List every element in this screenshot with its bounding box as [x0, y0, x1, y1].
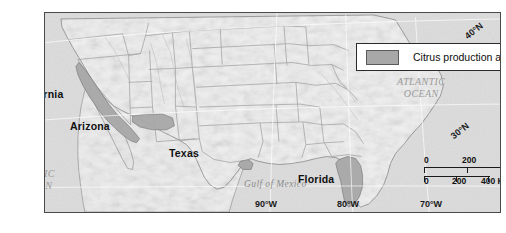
- map-frame: Citrus production areas 0 200 400 Miles …: [44, 12, 501, 213]
- pacific-line-1: PACIFIC: [44, 168, 55, 180]
- miles-tick-0: 0: [424, 155, 429, 165]
- map-legend: Citrus production areas: [356, 43, 501, 71]
- label-gulf-of-mexico: Gulf of Mexico: [244, 179, 307, 190]
- label-texas: Texas: [169, 147, 199, 159]
- pacific-line-2: OCEAN: [44, 180, 55, 192]
- km-rule-tick-2: [488, 177, 489, 182]
- label-california: California: [44, 88, 63, 100]
- miles-rule-tick-1: [467, 168, 468, 173]
- atlantic-line-1: ATLANTIC: [397, 76, 445, 88]
- label-arizona: Arizona: [70, 120, 110, 132]
- atlantic-line-2: OCEAN: [397, 88, 445, 100]
- citrus-production-map-figure: Citrus production areas 0 200 400 Miles …: [0, 0, 506, 233]
- legend-label: Citrus production areas: [413, 51, 501, 63]
- citrus-swatch-icon: [366, 50, 399, 65]
- label-lon-90w: 90°W: [255, 199, 277, 209]
- miles-rule-tick-0: [424, 168, 425, 173]
- km-rule-tick-1: [456, 177, 457, 182]
- kilometers-scale: 0 200 400 Kilometers: [424, 176, 501, 184]
- label-lon-80w: 80°W: [337, 199, 359, 209]
- label-atlantic-ocean: ATLANTIC OCEAN: [397, 76, 445, 99]
- scale-bars: 0 200 400 Miles 0 200 400 Kilometers: [424, 155, 501, 191]
- label-pacific-ocean: PACIFIC OCEAN: [44, 168, 55, 191]
- km-rule-tick-0: [424, 177, 425, 182]
- miles-tick-200: 200: [462, 155, 476, 165]
- label-lon-70w: 70°W: [420, 199, 442, 209]
- miles-scale: 0 200 400 Miles: [424, 155, 501, 175]
